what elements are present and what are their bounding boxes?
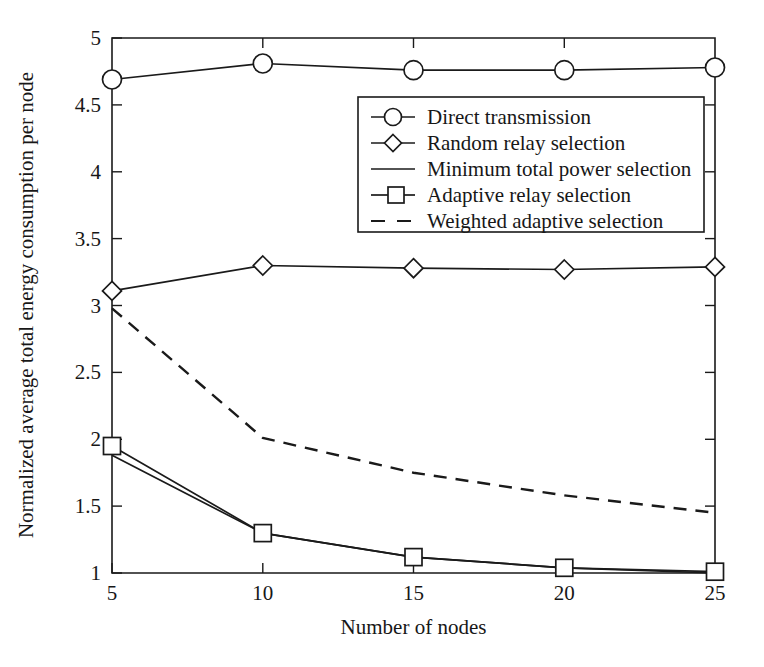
legend-circle-marker-icon [385, 109, 402, 126]
y-axis-title: Normalized average total energy consumpt… [14, 72, 38, 538]
chart-plot-area: 1 1.5 2 2.5 3 3.5 4 4.5 5 5 10 15 20 25 … [0, 0, 764, 667]
data-point-marker [706, 58, 725, 77]
data-point-marker [253, 54, 272, 73]
data-point-marker [555, 61, 574, 80]
y-tick-label: 3.5 [75, 227, 101, 251]
x-tick-label: 25 [705, 581, 726, 605]
data-point-marker [555, 260, 574, 279]
series-adaptive-relay-selection [104, 438, 724, 581]
data-point-marker [404, 61, 423, 80]
legend-label: Direct transmission [427, 105, 591, 129]
series-random-relay-selection [103, 256, 725, 300]
data-point-marker [405, 549, 422, 566]
y-tick-label: 4 [91, 160, 102, 184]
x-tick-label: 20 [554, 581, 575, 605]
series-weighted-adaptive-selection [112, 308, 715, 513]
y-tick-label: 2.5 [75, 360, 101, 384]
x-tick-label: 10 [252, 581, 273, 605]
data-point-marker [103, 281, 122, 300]
legend-label: Adaptive relay selection [427, 183, 632, 207]
data-point-marker [104, 438, 121, 455]
chart-legend: Direct transmission Random relay selecti… [358, 97, 704, 233]
y-tick-label: 1 [91, 561, 102, 585]
y-tick-label: 2 [91, 427, 102, 451]
y-tick-label: 3 [91, 294, 102, 318]
data-point-marker [254, 525, 271, 542]
data-point-marker [253, 256, 272, 275]
data-point-marker [706, 257, 725, 276]
x-tick-label: 5 [107, 581, 118, 605]
x-tick-label: 15 [403, 581, 424, 605]
legend-label: Random relay selection [427, 131, 626, 155]
x-axis-title: Number of nodes [341, 615, 487, 639]
chart-figure: 1 1.5 2 2.5 3 3.5 4 4.5 5 5 10 15 20 25 … [0, 0, 764, 667]
series-direct-transmission [103, 54, 725, 89]
data-point-marker [404, 259, 423, 278]
data-point-marker [556, 559, 573, 576]
data-point-marker [103, 70, 122, 89]
data-point-marker [707, 563, 724, 580]
y-axis-tick-labels: 1 1.5 2 2.5 3 3.5 4 4.5 5 [75, 26, 102, 585]
legend-square-marker-icon [388, 187, 404, 203]
y-tick-label: 5 [91, 26, 102, 50]
x-axis-tick-labels: 5 10 15 20 25 [107, 581, 726, 605]
y-tick-label: 4.5 [75, 93, 101, 117]
y-tick-label: 1.5 [75, 494, 101, 518]
legend-label: Minimum total power selection [427, 157, 692, 181]
legend-label: Weighted adaptive selection [427, 209, 664, 233]
